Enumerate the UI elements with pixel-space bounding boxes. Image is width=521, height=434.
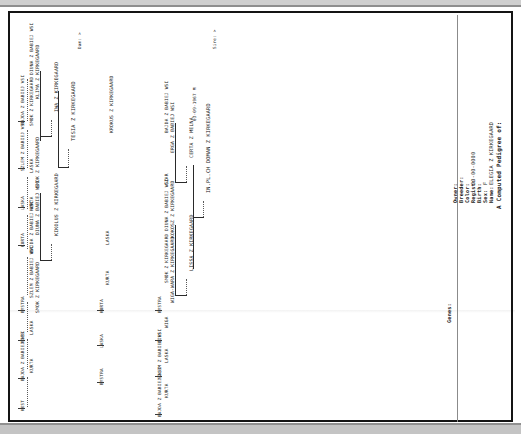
gen5-node-02: SZLEM Z BABIEJ WSI <box>21 121 25 171</box>
field-value-regist: 00-00-0000 <box>470 152 476 185</box>
gen3-node-krokus: KROKUS Z KIRKEGAARD <box>110 76 115 133</box>
page-title: A Computed Pedigree of: <box>496 121 502 209</box>
connector-dam-stem <box>68 149 69 167</box>
gen4-node-13: WIGA <box>165 316 170 328</box>
connector-kikolus-bracket <box>40 260 52 261</box>
rule-g5-08 <box>18 408 25 409</box>
leader-g4-08 <box>27 377 28 407</box>
gen4-node-02: SMOK Z KIRKEGAARD <box>30 77 35 126</box>
sire-name: IN.PL.CH DOMAN Z KIRKEGAARD <box>206 103 211 193</box>
leader-g4-07 <box>27 339 28 369</box>
rule-g5-09 <box>155 310 162 311</box>
gen4-node-11: DIUNA Z BABIEJ WSI <box>165 179 170 231</box>
rule-g5-01 <box>18 121 25 122</box>
gen2-node-iwa: IWA Z KIRKEGAARD <box>54 62 59 112</box>
leader-g4-06 <box>27 302 28 332</box>
connector-iwa-stem <box>51 120 52 136</box>
connector-certa-stem <box>186 166 187 182</box>
pedigree-sheet: A Computed Pedigree of: Name: ELEGIA Z K… <box>8 11 513 422</box>
leader-g4-01 <box>27 79 28 121</box>
gen4-node-03: LASKA <box>30 158 35 173</box>
scan-fold-line <box>10 310 515 313</box>
gen5-node-01: BAJDA Z BABIEJ WSI <box>21 75 25 125</box>
rule-g5-05 <box>18 310 25 311</box>
gen5-node-07: BAJDA Z BABIEJ WSI <box>21 331 25 381</box>
connector-lissa-stem <box>186 279 187 295</box>
leader-g4-02 <box>27 130 28 168</box>
gen3-node-klima: KLIMA Z KIRKEGAARD <box>36 45 41 99</box>
connector-iwa-bracket <box>40 136 52 137</box>
gen2-node-lissa: LISSA Z KIRKEGAARD <box>189 214 194 271</box>
field-label-color: Color: <box>464 183 470 203</box>
gen4-node-09: BAJDA Z BABIEJ WSI <box>165 81 170 133</box>
gen4-node-07: LASKA <box>30 320 35 335</box>
leader-g4-03 <box>27 177 28 209</box>
gen4-node-06: SZLEM Z BABIEJ WSI <box>30 246 35 298</box>
page-edge-bottom <box>0 425 521 434</box>
field-value-sex: F <box>482 182 488 185</box>
field-label-name: Name: <box>488 186 494 203</box>
gen3-node-erga: ERGA Z BABIEJ WSI <box>171 102 176 153</box>
field-label-birth: Birth: <box>476 183 482 203</box>
leader-g4-04 <box>27 215 28 249</box>
connector-lissa-bracket <box>175 295 187 296</box>
field-label-breeder: Breeder: <box>458 176 464 203</box>
rule-g5-11 <box>155 376 162 377</box>
rule-g5-06 <box>18 340 25 341</box>
rule-g5-12 <box>155 414 162 415</box>
gen4-node-14: LASKA <box>165 348 170 363</box>
gen4-node-08: KURTA <box>30 358 35 373</box>
leader-g4-05 <box>27 257 28 295</box>
connector-kikolus-stem <box>51 244 52 260</box>
field-label-owner: Owner: <box>452 183 458 203</box>
rule-g5-07 <box>18 378 25 379</box>
connector-dam-bracket-b <box>58 167 59 168</box>
connector-sire-bracket-top <box>193 217 204 218</box>
gen4-node-12: SMOK Z KIRKEGAARD <box>165 234 170 283</box>
rule-g5-03 <box>18 207 25 208</box>
rule-g5-02 <box>18 168 25 169</box>
gen4-node-15: KURTA <box>165 383 170 398</box>
connector-dam-bracket-top <box>58 167 69 168</box>
field-label-sex: Sex: <box>482 190 488 203</box>
sire-role-label: Sire: > <box>213 29 217 49</box>
gen4-node-17: KURTA <box>106 270 111 285</box>
gen4-node-16: LASKA <box>106 230 111 245</box>
rule-g5-14 <box>97 345 104 346</box>
gen5-node-12: BAJDA Z BABIEJ WSI <box>158 367 162 417</box>
gen3-node-wiga-wara: WIGA-WARA Z KIRKEGAARD <box>171 237 176 304</box>
gen5-node-08: KOST <box>21 400 25 411</box>
header-divider-rule <box>457 15 458 422</box>
dam-name: TESIA Z KIRKEGAARD <box>71 81 76 141</box>
rule-g5-13 <box>97 310 104 311</box>
dam-role-label: Dam: > <box>78 32 82 49</box>
field-value-name: ELEGIA Z KIRKEGAARD <box>488 122 494 185</box>
gen2-node-certa: CERTA Z MELNA <box>189 117 194 158</box>
page-edge-top-shadow <box>0 5 521 7</box>
rule-g5-04 <box>18 245 25 246</box>
connector-sire-stem <box>203 201 204 217</box>
rule-g5-10 <box>155 340 162 341</box>
sire-detail: 03-09-1967 M <box>193 88 197 121</box>
pedigree-page: A Computed Pedigree of: Name: ELEGIA Z K… <box>0 0 521 434</box>
connector-certa-bracket <box>175 182 187 183</box>
gen3-node-smok-2: SMOK Z KIRKEGAARD <box>36 262 41 313</box>
gen2-node-kikolus: KIKOLUS Z KIRKEGAARD <box>54 173 59 236</box>
gen3-node-diuna-1: DIUNA Z BABIEJ WSI <box>36 181 41 235</box>
gen4-node-01: DIUNA Z BABIEJ WSI <box>30 23 35 75</box>
genes-label: Genes: <box>446 303 452 323</box>
rule-g5-15 <box>97 382 104 383</box>
